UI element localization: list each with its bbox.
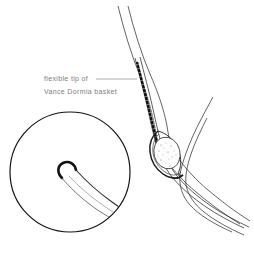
catheter xyxy=(135,57,249,228)
duct-wall-outer xyxy=(118,6,240,224)
inset-circle-outline xyxy=(10,112,130,232)
illustration-canvas: flexible tip of Vance Dormia basket xyxy=(0,0,254,253)
side-branch-wall-lower xyxy=(186,118,244,235)
marker-band xyxy=(136,62,160,147)
inset-circle xyxy=(10,112,130,232)
annotation-line-1: flexible tip of xyxy=(44,75,88,83)
side-branch xyxy=(180,97,244,235)
duct-walls xyxy=(118,6,250,224)
annotation-line-2: Vance Dormia basket xyxy=(44,88,117,95)
figure-root: flexible tip of Vance Dormia basket xyxy=(0,0,254,253)
